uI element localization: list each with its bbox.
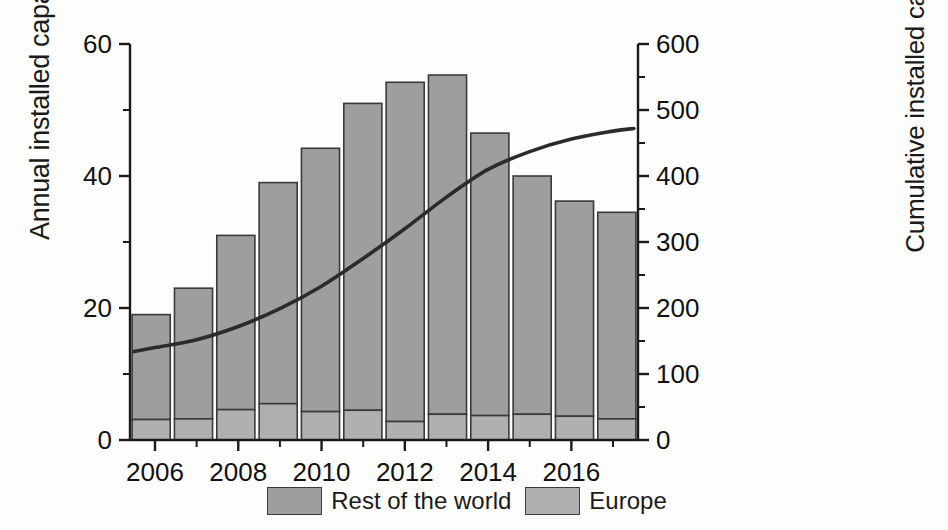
bar-segment-europe bbox=[174, 419, 212, 440]
bar-segment-rest-of-the-world bbox=[598, 212, 636, 419]
bar-segment-europe bbox=[386, 422, 424, 440]
left-axis-tick-label: 40 bbox=[83, 161, 112, 191]
x-axis-tick-label: 2006 bbox=[126, 457, 184, 487]
bar-segment-rest-of-the-world bbox=[555, 201, 593, 416]
chart-figure: Annual installed capacity(GW) Cumulative… bbox=[0, 0, 948, 530]
plot-area: 0204060010020030040050060020062008201020… bbox=[0, 0, 948, 530]
bar-segment-rest-of-the-world bbox=[428, 75, 466, 414]
bar-segment-rest-of-the-world bbox=[132, 315, 170, 420]
right-axis-tick-label: 500 bbox=[656, 95, 699, 125]
legend-swatch-rest-of-the-world bbox=[267, 487, 322, 515]
bar-segment-europe bbox=[598, 419, 636, 440]
bar-segment-rest-of-the-world bbox=[259, 183, 297, 404]
right-axis-tick-label: 0 bbox=[656, 425, 670, 455]
bar-segment-rest-of-the-world bbox=[386, 82, 424, 421]
legend-swatch-europe bbox=[525, 487, 580, 515]
left-axis-tick-label: 60 bbox=[83, 29, 112, 59]
x-axis-tick-label: 2008 bbox=[209, 457, 267, 487]
x-axis-tick-label: 2016 bbox=[542, 457, 600, 487]
bar-segment-europe bbox=[132, 420, 170, 440]
bar-segment-europe bbox=[344, 410, 382, 440]
legend-item-europe[interactable]: Europe bbox=[525, 487, 680, 515]
left-axis-label: Annual installed capacity(GW) bbox=[25, 0, 56, 274]
bar-segment-rest-of-the-world bbox=[513, 176, 551, 414]
left-axis-tick-label: 0 bbox=[98, 425, 112, 455]
right-axis-tick-label: 100 bbox=[656, 359, 699, 389]
bar-segment-europe bbox=[301, 412, 339, 440]
right-axis-tick-label: 300 bbox=[656, 227, 699, 257]
right-axis-tick-label: 400 bbox=[656, 161, 699, 191]
bar-segment-europe bbox=[259, 404, 297, 440]
bar-segment-europe bbox=[217, 410, 255, 440]
bar-segment-europe bbox=[428, 414, 466, 440]
bar-segment-europe bbox=[555, 416, 593, 440]
right-axis-tick-label: 600 bbox=[656, 29, 699, 59]
bar-segment-rest-of-the-world bbox=[174, 288, 212, 419]
bars-layer bbox=[132, 75, 636, 440]
legend-item-rest-of-the-world[interactable]: Rest of the world bbox=[267, 487, 525, 515]
legend-label-rest-of-the-world: Rest of the world bbox=[331, 487, 511, 515]
bar-segment-europe bbox=[471, 416, 509, 440]
x-axis-tick-label: 2012 bbox=[376, 457, 434, 487]
legend-label-europe: Europe bbox=[589, 487, 666, 515]
right-axis-label: Cumulative installed capacity (GW) bbox=[900, 0, 931, 271]
right-axis-tick-label: 200 bbox=[656, 293, 699, 323]
bar-segment-europe bbox=[513, 414, 551, 440]
x-axis-tick-label: 2014 bbox=[459, 457, 517, 487]
x-axis-tick-label: 2010 bbox=[293, 457, 351, 487]
left-axis-tick-label: 20 bbox=[83, 293, 112, 323]
legend: Rest of the world Europe bbox=[0, 487, 948, 515]
